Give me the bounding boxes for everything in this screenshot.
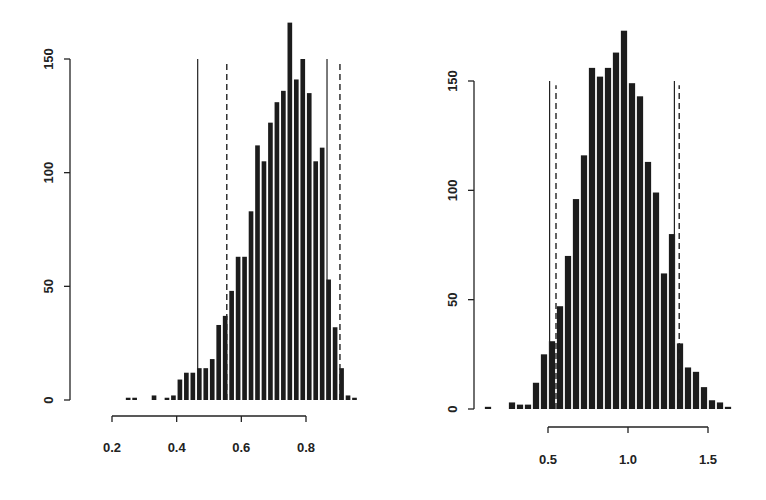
y-tick-label: 100 [41,162,56,184]
histogram-bar [565,256,571,409]
histogram-bar [709,400,715,409]
histogram-bar [629,83,635,409]
histogram-bar [637,96,643,409]
histogram-bar [320,148,325,400]
histogram-bar [242,257,247,400]
histogram-bar [313,161,318,400]
histogram-bar [645,162,651,409]
histogram-bar [717,402,723,409]
y-tick-label: 50 [445,292,460,306]
histogram-bar [262,161,267,400]
histogram-figure: 0501001500.20.40.60.8 0501001500.51.01.5 [0,0,766,500]
histogram-bar [613,53,619,409]
x-tick-label: 1.0 [619,452,637,467]
histogram-bar [281,91,286,400]
histogram-bar [236,257,241,400]
histogram-bar [597,77,603,409]
histogram-bar [621,31,627,409]
y-tick-label: 150 [445,70,460,92]
histogram-bar [300,59,305,400]
histogram-bar [229,291,234,400]
x-tick-label: 0.8 [297,440,315,455]
histogram-bar [725,407,731,409]
histogram-bar [203,368,208,400]
x-tick-label: 0.5 [539,452,557,467]
x-tick-label: 0.4 [168,440,187,455]
left-histogram: 0501001500.20.40.60.8 [41,23,356,455]
histogram-bar [693,372,699,409]
y-tick-label: 150 [41,48,56,70]
histogram-bar [605,68,611,409]
histogram-bar [517,405,523,409]
histogram-bar [352,398,357,400]
histogram-bar [184,373,189,400]
histogram-bar [581,155,587,409]
histogram-bar [525,405,531,409]
histogram-bar [685,367,691,409]
histogram-bar [333,327,338,400]
histogram-bar [255,145,260,400]
histogram-bar [485,407,491,409]
x-tick-label: 0.6 [232,440,250,455]
histogram-bar [268,123,273,400]
histogram-bar [249,211,254,400]
histogram-bar [346,395,351,400]
y-tick-label: 100 [445,179,460,201]
histogram-bar [294,79,299,400]
x-tick-label: 1.5 [699,452,717,467]
histogram-bar [533,383,539,409]
x-tick-label: 0.2 [103,440,121,455]
histogram-bar [275,102,280,400]
histogram-bar [653,193,659,409]
histogram-bar [165,398,170,400]
histogram-bar [178,380,183,400]
histogram-bar [701,387,707,409]
y-tick-label: 0 [445,405,460,412]
histogram-bar [210,359,215,400]
histogram-bar [191,373,196,400]
histogram-bar [307,93,312,400]
histogram-bar [152,395,157,400]
histogram-bar [288,23,293,400]
histogram-bar [132,398,137,400]
histogram-bar [589,68,595,409]
y-tick-label: 50 [41,279,56,293]
histogram-bar [171,395,176,400]
histogram-bar [573,199,579,409]
histogram-bar [661,273,667,409]
y-tick-label: 0 [41,396,56,403]
histogram-bar [126,398,131,400]
right-histogram: 0501001500.51.01.5 [445,31,731,467]
histogram-bar [677,343,683,409]
histogram-bar [557,306,563,409]
histogram-bar [509,402,515,409]
histogram-bar [541,354,547,409]
histogram-bar [216,325,221,400]
